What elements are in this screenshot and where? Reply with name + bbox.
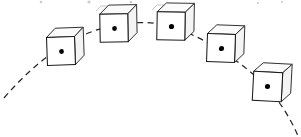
- ghost-dot-4: [257, 2, 259, 4]
- ghost-dot-1: [40, 1, 43, 4]
- projectile-motion-figure: A cube-shaped object shown at five succe…: [0, 0, 301, 137]
- figure-canvas: [0, 0, 301, 137]
- cube-group-3: [157, 3, 195, 41]
- cube-group-4: [207, 25, 245, 63]
- cube-group-5: [252, 62, 292, 102]
- ghost-dot-3: [130, 1, 133, 4]
- cube-group-2: [100, 5, 138, 43]
- ghost-dot-2: [87, 0, 90, 3]
- cube-group-1: [46, 27, 84, 65]
- ghost-dot-5: [281, 1, 283, 3]
